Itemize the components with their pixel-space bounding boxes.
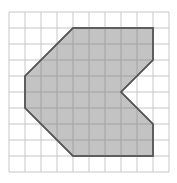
grid-diagram — [0, 0, 177, 183]
